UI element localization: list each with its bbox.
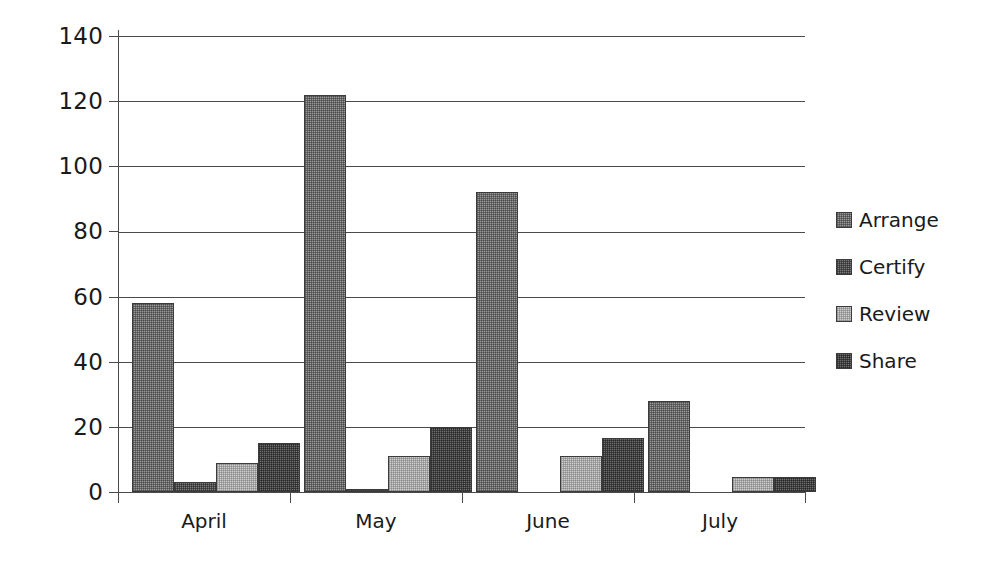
gridline-100 <box>118 166 805 167</box>
gridline-80 <box>118 232 805 233</box>
legend-swatch-arrange-icon <box>836 212 852 228</box>
bar-july-arrange <box>648 401 690 492</box>
x-axis-label-july: July <box>640 508 800 534</box>
y-axis-label-40: 40 <box>11 351 103 374</box>
bar-may-share <box>430 427 472 492</box>
bar-july-review <box>732 477 774 492</box>
legend-item-certify: Certify <box>836 243 986 290</box>
bar-april-share <box>258 443 300 492</box>
gridline-60 <box>118 297 805 298</box>
legend-label-arrange: Arrange <box>859 209 939 231</box>
bar-april-certify <box>174 482 216 492</box>
bar-april-review <box>216 463 258 492</box>
legend: Arrange Certify Review Share <box>836 196 986 384</box>
legend-label-certify: Certify <box>859 256 925 278</box>
plot-area <box>118 36 805 492</box>
legend-item-arrange: Arrange <box>836 196 986 243</box>
x-tick-1 <box>290 492 291 503</box>
y-axis-label-80: 80 <box>11 220 103 243</box>
x-tick-3 <box>634 492 635 503</box>
legend-swatch-share-icon <box>836 353 852 369</box>
bar-may-arrange <box>304 95 346 492</box>
y-axis-label-140: 140 <box>11 25 103 48</box>
legend-swatch-certify-icon <box>836 259 852 275</box>
y-axis-label-100: 100 <box>11 155 103 178</box>
bar-june-arrange <box>476 192 518 492</box>
legend-item-review: Review <box>836 290 986 337</box>
x-tick-2 <box>462 492 463 503</box>
bar-chart: 140 120 100 80 60 40 20 0 <box>0 0 991 575</box>
legend-swatch-review-icon <box>836 306 852 322</box>
bar-june-share <box>602 438 644 492</box>
y-axis-labels: 140 120 100 80 60 40 20 0 <box>0 0 103 575</box>
x-tick-0 <box>118 492 119 503</box>
bar-april-arrange <box>132 303 174 492</box>
legend-label-review: Review <box>859 303 930 325</box>
x-tick-4 <box>805 492 806 503</box>
y-axis-label-120: 120 <box>11 90 103 113</box>
x-axis-label-june: June <box>468 508 628 534</box>
gridline-40 <box>118 362 805 363</box>
bar-june-review <box>560 456 602 492</box>
y-axis-label-0: 0 <box>11 481 103 504</box>
legend-item-share: Share <box>836 337 986 384</box>
legend-label-share: Share <box>859 350 917 372</box>
x-axis-label-may: May <box>296 508 456 534</box>
bar-may-review <box>388 456 430 492</box>
bar-may-certify <box>346 489 388 492</box>
bar-july-share <box>774 477 816 492</box>
y-axis-label-20: 20 <box>11 416 103 439</box>
gridline-140 <box>118 36 805 37</box>
gridline-120 <box>118 101 805 102</box>
y-axis-label-60: 60 <box>11 286 103 309</box>
x-axis-label-april: April <box>124 508 284 534</box>
